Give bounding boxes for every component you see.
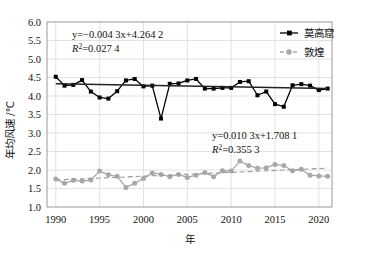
data-point-marker (185, 78, 189, 82)
svg-text:y=0.010 3x+1.708 1: y=0.010 3x+1.708 1 (212, 130, 297, 141)
legend-label: 敦煌 (304, 46, 324, 58)
data-point-marker (194, 77, 198, 81)
data-point-marker (159, 117, 163, 121)
data-point-marker (115, 174, 120, 179)
data-point-marker (123, 185, 128, 190)
data-point-marker (62, 181, 67, 186)
data-point-marker (150, 170, 155, 175)
y-tick-label: 3.0 (28, 128, 41, 139)
data-point-marker (247, 79, 251, 83)
svg-text:R2=0.027 4: R2=0.027 4 (71, 42, 120, 55)
data-point-marker (53, 176, 58, 181)
data-point-marker (89, 90, 93, 94)
data-point-marker (80, 78, 84, 82)
data-point-marker (246, 163, 251, 168)
data-point-marker (124, 78, 128, 82)
data-point-marker (291, 83, 295, 87)
data-point-marker (255, 166, 260, 171)
y-tick-label: 4.5 (28, 72, 41, 83)
data-point-marker (325, 174, 330, 179)
y-tick-label: 1.0 (28, 202, 41, 213)
data-point-marker (54, 75, 58, 79)
data-point-marker (264, 90, 268, 94)
x-tick-label: 2010 (221, 214, 242, 225)
y-tick-label: 1.5 (28, 183, 41, 194)
y-tick-label: 2.0 (28, 165, 41, 176)
data-point-marker (273, 162, 278, 167)
data-point-marker (264, 165, 269, 170)
y-tick-label: 4.0 (28, 91, 41, 102)
x-tick-label: 1990 (45, 214, 66, 225)
x-tick-label: 2000 (133, 214, 154, 225)
x-tick-label: 2005 (177, 214, 198, 225)
data-point-marker (202, 170, 207, 175)
dunhuang-r2-value: =0.355 3 (222, 144, 259, 155)
y-axis-tick-labels: 6.05.55.04.54.03.53.02.52.01.51.0 (28, 17, 41, 213)
data-point-marker (229, 169, 234, 174)
data-point-marker (237, 159, 242, 164)
data-point-marker (282, 105, 286, 109)
data-point-marker (316, 173, 321, 178)
data-point-marker (177, 81, 181, 85)
data-point-marker (308, 84, 312, 88)
data-point-marker (281, 163, 286, 168)
data-point-marker (290, 168, 295, 173)
legend-marker-swatch (286, 49, 292, 55)
y-axis-title: 年均风速 /℃ (4, 101, 16, 160)
svg-text:R2=0.355 3: R2=0.355 3 (211, 143, 260, 156)
y-tick-label: 5.0 (28, 54, 41, 65)
data-point-marker (115, 89, 119, 93)
y-tick-label: 3.5 (28, 109, 41, 120)
data-point-marker (238, 80, 242, 84)
data-point-marker (255, 93, 259, 97)
chart-figure: 6.05.55.04.54.03.53.02.52.01.51.0 199019… (0, 0, 375, 261)
x-axis-title: 年 (185, 233, 195, 245)
data-point-marker (159, 172, 164, 177)
x-tick-label: 2020 (308, 214, 329, 225)
data-point-marker (98, 95, 102, 99)
mogao-equation-line1: y=−0.004 3x+4.264 2 (72, 29, 163, 40)
data-point-marker (211, 174, 216, 179)
dunhuang-equation-line1: y=0.010 3x+1.708 1 (212, 130, 297, 141)
x-tick-label: 2015 (265, 214, 286, 225)
y-tick-label: 5.5 (28, 35, 41, 46)
y-tick-label: 6.0 (28, 17, 41, 28)
chart-canvas: 6.05.55.04.54.03.53.02.52.01.51.0 199019… (0, 0, 375, 261)
x-tick-label: 1995 (89, 214, 110, 225)
legend-marker-swatch (287, 31, 292, 36)
legend-label: 莫高窟 (304, 27, 334, 39)
y-tick-label: 2.5 (28, 146, 41, 157)
data-point-marker (106, 172, 111, 177)
data-point-marker (132, 181, 137, 186)
svg-text:y=−0.004 3x+4.264 2: y=−0.004 3x+4.264 2 (72, 29, 163, 40)
data-point-marker (97, 169, 102, 174)
data-point-marker (299, 82, 303, 86)
data-point-marker (141, 176, 146, 181)
mogao-r2-value: =0.027 4 (82, 43, 120, 54)
data-point-marker (133, 77, 137, 81)
data-point-marker (308, 173, 313, 178)
data-point-marker (185, 175, 190, 180)
data-point-marker (106, 97, 110, 101)
data-point-marker (273, 102, 277, 106)
